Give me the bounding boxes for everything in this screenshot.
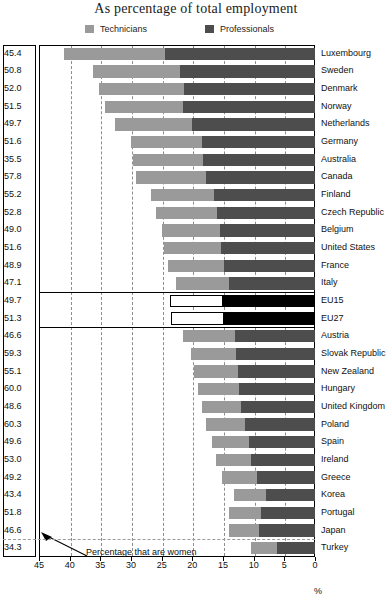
x-tick-label-45: 45 bbox=[27, 560, 51, 570]
country-label: Germany bbox=[321, 137, 392, 146]
x-tick-mark-5 bbox=[284, 557, 285, 561]
country-label: Turkey bbox=[321, 543, 392, 552]
country-label: Norway bbox=[321, 102, 392, 111]
country-label: Netherlands bbox=[321, 119, 392, 128]
country-label: Sweden bbox=[321, 66, 392, 75]
country-label: Ireland bbox=[321, 455, 392, 464]
x-tick-label-25: 25 bbox=[150, 560, 174, 570]
country-label: Finland bbox=[321, 190, 392, 199]
country-label: United States bbox=[321, 243, 392, 252]
x-tick-label-40: 40 bbox=[58, 560, 82, 570]
x-tick-mark-45 bbox=[39, 557, 40, 561]
chart-container: As percentage of total employment Techni… bbox=[0, 0, 392, 614]
x-tick-mark-35 bbox=[100, 557, 101, 561]
x-tick-label-30: 30 bbox=[119, 560, 143, 570]
country-label: France bbox=[321, 261, 392, 270]
x-tick-mark-0 bbox=[315, 557, 316, 561]
x-tick-label-20: 20 bbox=[180, 560, 204, 570]
row-separator bbox=[39, 327, 315, 328]
country-label: Poland bbox=[321, 420, 392, 429]
country-label: Czech Republic bbox=[321, 208, 392, 217]
country-label: Canada bbox=[321, 172, 392, 181]
x-tick-label-5: 5 bbox=[272, 560, 296, 570]
x-tick-label-0: 0 bbox=[303, 560, 327, 570]
country-label: United Kingdom bbox=[321, 402, 392, 411]
country-label: Belgium bbox=[321, 225, 392, 234]
country-label: Hungary bbox=[321, 384, 392, 393]
x-tick-mark-25 bbox=[162, 557, 163, 561]
country-label: EU27 bbox=[321, 314, 392, 323]
country-label: Luxembourg bbox=[321, 49, 392, 58]
country-label: Portugal bbox=[321, 508, 392, 517]
country-label: Japan bbox=[321, 526, 392, 535]
annotation-label: Percentage that are women bbox=[86, 547, 197, 557]
annotation-arrow-icon bbox=[39, 532, 91, 558]
x-tick-label-35: 35 bbox=[88, 560, 112, 570]
country-label: Italy bbox=[321, 278, 392, 287]
x-axis-unit-label: % bbox=[0, 586, 392, 596]
country-label: EU15 bbox=[321, 296, 392, 305]
country-label: Slovak Republic bbox=[321, 349, 392, 358]
country-label: Spain bbox=[321, 437, 392, 446]
x-tick-label-10: 10 bbox=[242, 560, 266, 570]
x-tick-mark-10 bbox=[254, 557, 255, 561]
x-axis-ticks: 454035302520151050 bbox=[0, 560, 392, 574]
country-label: Austria bbox=[321, 331, 392, 340]
row-separator bbox=[39, 292, 315, 293]
country-label: Australia bbox=[321, 155, 392, 164]
x-tick-mark-15 bbox=[223, 557, 224, 561]
row-separator bbox=[3, 539, 315, 540]
x-tick-mark-40 bbox=[70, 557, 71, 561]
x-tick-mark-30 bbox=[131, 557, 132, 561]
country-label: New Zealand bbox=[321, 367, 392, 376]
x-tick-mark-20 bbox=[192, 557, 193, 561]
country-label: Korea bbox=[321, 490, 392, 499]
country-label: Greece bbox=[321, 473, 392, 482]
country-label-column: LuxembourgSwedenDenmarkNorwayNetherlands… bbox=[0, 45, 392, 557]
x-tick-label-15: 15 bbox=[211, 560, 235, 570]
country-label: Denmark bbox=[321, 84, 392, 93]
